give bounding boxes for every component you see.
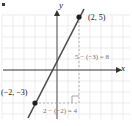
rise-calculation-label: 5 − (−3) = 8 <box>75 54 109 61</box>
x-axis-label: x <box>121 64 125 73</box>
point-label-lower: (−2, −3) <box>1 89 27 97</box>
slope-figure: y x (2, 5) (−2, −3) 5 − (−3) = 8 2 − (−2… <box>0 0 132 126</box>
point-label-upper: (2, 5) <box>88 14 105 22</box>
point-marker-lower <box>32 100 37 105</box>
point-marker-upper <box>76 14 81 19</box>
run-calculation-label: 2 − (−2) = 4 <box>43 108 77 115</box>
y-axis-label: y <box>59 1 63 10</box>
